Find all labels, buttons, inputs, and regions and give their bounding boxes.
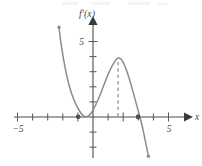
function-graph-figure: f′(x) x 5 −5 5 — [0, 0, 202, 166]
x-tick-label-5: 5 — [167, 124, 172, 134]
y-axis — [88, 16, 97, 158]
x-axis — [14, 112, 193, 121]
function-label: f′(x) — [79, 8, 96, 20]
x-tick-label-minus-5: −5 — [12, 124, 23, 134]
scan-artifacts — [62, 2, 168, 5]
curve-f-prime — [59, 28, 148, 156]
graph-canvas: f′(x) x 5 −5 5 — [0, 0, 202, 166]
point-local-minimum — [76, 115, 81, 120]
x-axis-arrowhead — [184, 112, 193, 121]
y-tick-label-5: 5 — [79, 37, 84, 47]
curve-endpoint-lower-right — [147, 155, 150, 158]
curve-endpoint-upper-left — [57, 26, 60, 29]
point-x-intercept — [136, 115, 141, 120]
x-axis-label: x — [194, 112, 200, 122]
